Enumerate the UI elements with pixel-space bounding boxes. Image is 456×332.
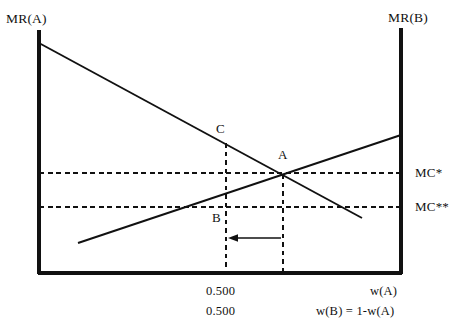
point-label-c: C bbox=[216, 122, 225, 135]
leftward-shift-arrow bbox=[228, 234, 281, 242]
x-axis-caption-secondary: w(B) = 1-w(A) bbox=[316, 305, 394, 318]
mc-star-label: MC* bbox=[415, 166, 442, 179]
x-axis-caption: w(A) bbox=[370, 285, 397, 298]
diagram-canvas bbox=[0, 0, 456, 332]
point-label-b: B bbox=[212, 211, 221, 224]
x-tick-primary: 0.500 bbox=[206, 285, 235, 298]
left-axis-label: MR(A) bbox=[6, 12, 47, 26]
mr-a-curve bbox=[39, 43, 362, 218]
mc-double-star-label: MC** bbox=[415, 200, 449, 213]
x-tick-secondary: 0.500 bbox=[206, 305, 235, 318]
point-label-a: A bbox=[278, 148, 288, 161]
mr-mc-diagram: MR(A) MR(B) C A B MC* MC** 0.500 0.500 w… bbox=[0, 0, 456, 332]
right-axis-label: MR(B) bbox=[388, 11, 428, 25]
